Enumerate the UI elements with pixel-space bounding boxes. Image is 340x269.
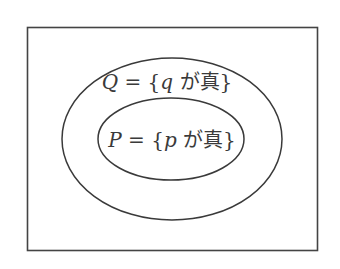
set-q-var: Q — [102, 70, 118, 94]
set-q-cond: が真} — [173, 70, 232, 94]
set-p-eq: = { — [122, 128, 164, 152]
set-q-elem: q — [160, 70, 173, 94]
set-p-label: P = {p が真} — [107, 128, 236, 152]
set-q-eq: = { — [118, 70, 160, 94]
set-p-elem: p — [164, 128, 177, 152]
venn-diagram: Q = {q が真} P = {p が真} — [0, 0, 340, 269]
set-q-label: Q = {q が真} — [102, 70, 233, 94]
set-p-cond: が真} — [177, 128, 236, 152]
set-p-var: P — [107, 128, 122, 152]
